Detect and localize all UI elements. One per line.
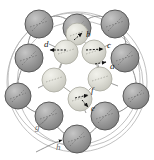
cluster-diagram-svg <box>0 0 154 160</box>
label-c: c <box>107 41 111 50</box>
outer-sphere <box>25 10 53 38</box>
outer-sphere <box>123 83 149 109</box>
label-e: e <box>91 104 95 113</box>
label-h: h <box>56 143 61 152</box>
inner-sphere <box>54 40 78 64</box>
outer-sphere <box>101 10 129 38</box>
outer-sphere <box>91 102 119 130</box>
label-d: d <box>44 40 49 49</box>
outer-sphere <box>63 125 91 153</box>
inner-sphere <box>82 40 106 64</box>
figure-canvas: a b c d e f g h <box>0 0 154 160</box>
label-f: f <box>91 86 94 95</box>
inner-sphere <box>68 87 92 111</box>
outer-sphere <box>5 83 31 109</box>
label-g: g <box>35 123 40 132</box>
label-b: b <box>86 30 91 39</box>
inner-sphere <box>42 68 66 92</box>
label-a: a <box>110 62 115 71</box>
outer-sphere <box>111 44 139 72</box>
outer-sphere <box>15 44 43 72</box>
